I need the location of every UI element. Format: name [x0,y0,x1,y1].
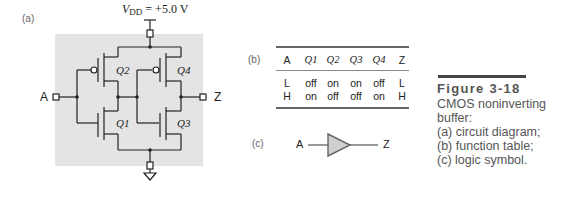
gnd-terminal [147,162,153,169]
q2-label: Q2 [116,64,129,76]
caption-line: CMOS noninverting [437,97,546,111]
ground-icon [144,173,156,180]
caption-line: (b) function table; [437,139,534,153]
table-cell: H [387,90,417,102]
figure-number: Figure 3-18 [437,81,521,96]
symbol-output-z-label: Z [383,138,390,150]
panel-b-label: (b) [248,54,260,65]
header-z: Z [387,54,417,66]
output-z-label: Z [214,90,221,104]
q1-label: Q1 [116,117,129,129]
q3-label: Q3 [177,117,190,129]
table-top-rule [276,46,409,48]
q4-label: Q4 [177,64,190,76]
panel-c-label: (c) [252,138,264,149]
caption-line: buffer: [437,111,472,125]
output-terminal [200,94,206,100]
buffer-symbol-icon [300,130,380,160]
table-header-rule [276,70,409,71]
input-terminal [53,94,59,100]
caption-line: (c) logic symbol. [437,153,527,167]
input-a-label: A [40,90,48,104]
table-cell: L [387,77,417,89]
caption-rule [438,75,526,78]
caption-line: (a) circuit diagram; [437,125,541,139]
vdd-terminal [147,30,153,37]
table-bottom-rule [276,107,409,109]
circuit-diagram [0,0,240,197]
